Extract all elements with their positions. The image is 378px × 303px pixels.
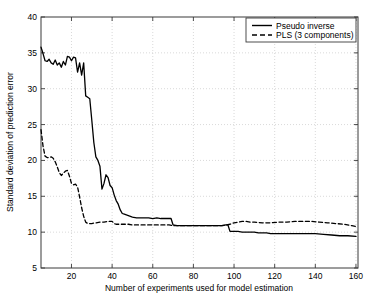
x-tick-label: 20 <box>67 271 77 281</box>
y-axis-label: Standard deviation of prediction error <box>5 72 15 212</box>
x-tick-label: 40 <box>107 271 117 281</box>
legend: Pseudo inverse PLS (3 components) <box>246 18 356 42</box>
x-tick-label: 80 <box>189 271 199 281</box>
y-tick-label: 20 <box>28 155 38 165</box>
x-tick-label: 60 <box>148 271 158 281</box>
legend-item-pseudo-inverse: Pseudo inverse <box>276 21 335 31</box>
x-tick-label: 140 <box>308 271 322 281</box>
x-tick-label: 160 <box>349 271 363 281</box>
chart-background <box>0 0 378 303</box>
y-tick-label: 5 <box>32 263 37 273</box>
line-chart: 20406080100120140160510152025303540 Numb… <box>0 0 378 303</box>
x-tick-label: 100 <box>227 271 241 281</box>
x-axis-label: Number of experiments used for model est… <box>105 283 293 293</box>
y-tick-label: 25 <box>28 120 38 130</box>
y-tick-label: 10 <box>28 227 38 237</box>
chart-figure: 20406080100120140160510152025303540 Numb… <box>0 0 378 303</box>
y-tick-label: 40 <box>28 12 38 22</box>
y-tick-label: 35 <box>28 48 38 58</box>
x-tick-label: 120 <box>268 271 282 281</box>
y-tick-label: 30 <box>28 84 38 94</box>
y-tick-label: 15 <box>28 191 38 201</box>
legend-item-pls: PLS (3 components) <box>276 30 354 40</box>
